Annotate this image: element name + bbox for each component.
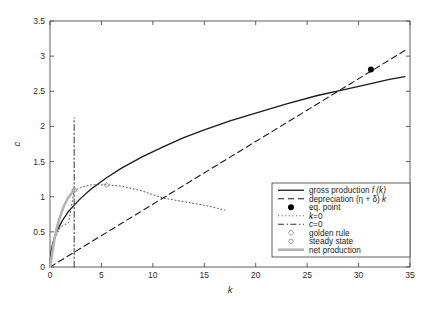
legend-marker-sample	[288, 204, 294, 210]
x-tick-label: 20	[251, 270, 261, 280]
y-tick-label: 3.5	[33, 16, 45, 26]
x-tick-label: 5	[99, 270, 104, 280]
y-tick-label: 1	[40, 192, 45, 202]
marker-layer	[72, 66, 374, 192]
x-axis-label: k	[228, 284, 234, 295]
x-tick-label: 30	[354, 270, 364, 280]
x-tick-label: 25	[302, 270, 312, 280]
legend-box[interactable]: gross production f (k)depreciation (η + …	[272, 183, 410, 257]
y-tick-label: 1.5	[33, 157, 45, 167]
y-tick-label: 0.5	[33, 227, 45, 237]
y-tick-label: 3	[40, 51, 45, 61]
marker-eq-point	[368, 66, 374, 72]
x-tick-label: 0	[48, 270, 53, 280]
series-net-production	[50, 190, 74, 267]
y-axis-label: c	[11, 141, 22, 146]
y-tick-label: 2	[40, 121, 45, 131]
dot-accent-icon	[311, 209, 312, 210]
x-tick-label: 15	[200, 270, 210, 280]
legend-label: net production	[309, 246, 361, 255]
x-tick-label: 35	[405, 270, 415, 280]
y-tick-label: 2.5	[33, 86, 45, 96]
y-tick-label: 0	[40, 262, 45, 272]
x-tick-label: 10	[148, 270, 158, 280]
dot-accent-icon	[311, 217, 312, 218]
series-k-0	[53, 185, 225, 245]
figure-canvas: 0510152025303500.511.522.533.5 gross pro…	[0, 0, 429, 309]
growth-model-phase-plot: 0510152025303500.511.522.533.5 gross pro…	[0, 0, 429, 309]
